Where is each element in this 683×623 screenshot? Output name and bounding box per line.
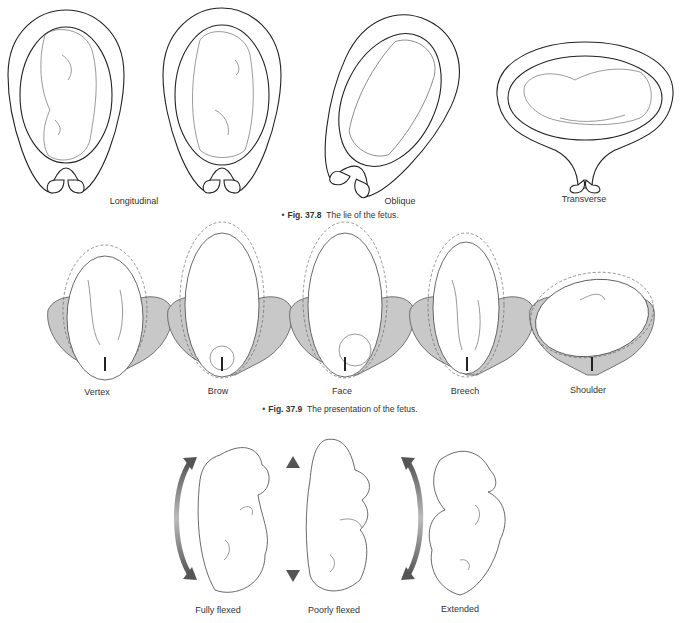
caption-fig-37-9: •Fig. 37.9 The presentation of the fetus… xyxy=(262,404,417,414)
label-oblique: Oblique xyxy=(384,196,415,206)
attitude-poorly-flexed xyxy=(286,439,369,591)
presentation-breech xyxy=(410,233,535,377)
presentation-shoulder xyxy=(524,263,661,375)
label-fully-flexed: Fully flexed xyxy=(195,605,241,615)
caption-bullet: • xyxy=(262,404,265,414)
caption-fig-37-8: •Fig. 37.8 The lie of the fetus. xyxy=(281,210,398,220)
attitude-extended xyxy=(401,451,505,595)
uterus-oblique xyxy=(295,0,480,215)
label-breech: Breech xyxy=(451,386,480,396)
caption-bullet: • xyxy=(281,210,284,220)
attitude-fully-flexed xyxy=(177,448,270,593)
caption-text: The presentation of the fetus. xyxy=(307,404,418,414)
presentation-vertex xyxy=(48,245,173,380)
caption-fig-number: Fig. 37.8 xyxy=(287,210,321,220)
label-extended: Extended xyxy=(441,604,479,614)
presentation-brow xyxy=(168,222,293,378)
uterus-longitudinal-2 xyxy=(163,8,281,193)
caption-fig-number: Fig. 37.9 xyxy=(268,404,302,414)
label-vertex: Vertex xyxy=(84,387,110,397)
label-transverse: Transverse xyxy=(562,194,607,204)
illustrations-canvas xyxy=(0,0,683,623)
label-shoulder: Shoulder xyxy=(570,385,606,395)
uterus-transverse xyxy=(497,42,673,193)
label-longitudinal: Longitudinal xyxy=(110,196,159,206)
caption-text: The lie of the fetus. xyxy=(326,210,398,220)
uterus-longitudinal-1 xyxy=(8,10,124,193)
presentation-face xyxy=(290,222,415,378)
label-poorly-flexed: Poorly flexed xyxy=(308,605,360,615)
label-brow: Brow xyxy=(208,386,229,396)
label-face: Face xyxy=(332,386,352,396)
